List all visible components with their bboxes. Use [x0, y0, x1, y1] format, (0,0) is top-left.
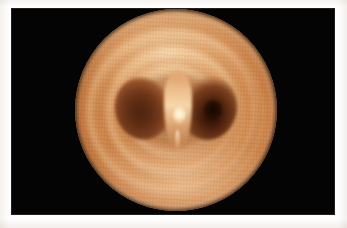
photograph-plate: [11, 8, 335, 215]
figure-caption: [11, 216, 335, 227]
endoscopic-field-of-view: [75, 9, 277, 211]
figure-root: [0, 0, 347, 228]
